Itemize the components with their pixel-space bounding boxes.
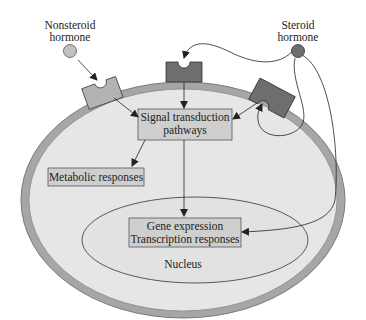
steroid-hormone-label-2: hormone [278, 31, 319, 43]
signal-transduction-box: Signal transduction pathways [138, 109, 232, 140]
metabolic-responses-box: Metabolic responses [48, 168, 144, 186]
nonsteroid-hormone-label-2: hormone [50, 31, 91, 43]
steroid-receptor-top [166, 62, 202, 82]
signal-transduction-label: Signal transduction [140, 111, 229, 124]
nucleus-label: Nucleus [164, 258, 202, 270]
gene-expression-label-2: Transcription responses [130, 233, 240, 246]
gene-expression-label: Gene expression [147, 220, 224, 233]
steroid-hormone-label: Steroid [281, 19, 314, 31]
arrow-steroid-to-top-receptor [184, 44, 292, 62]
arrow-hormone-to-receptor [78, 60, 97, 80]
gene-expression-box: Gene expression Transcription responses [129, 218, 241, 247]
nonsteroid-hormone-icon [64, 45, 77, 58]
nonsteroid-hormone-label: Nonsteroid [44, 19, 95, 31]
metabolic-responses-label: Metabolic responses [49, 171, 144, 184]
signal-transduction-label-2: pathways [163, 124, 207, 137]
hormone-signaling-diagram: Nonsteroid hormone Steroid hormone Signa… [0, 0, 366, 320]
